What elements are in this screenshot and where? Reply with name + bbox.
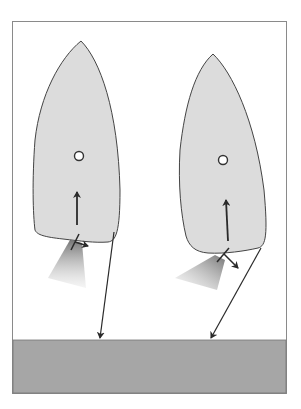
boat-docking-diagram <box>0 0 301 409</box>
pivot-point-left <box>75 152 84 161</box>
pivot-point-right <box>219 156 228 165</box>
dock <box>13 340 286 393</box>
